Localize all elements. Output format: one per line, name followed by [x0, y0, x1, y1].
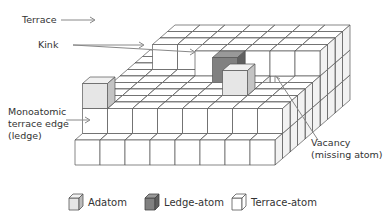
terrace-cube-front — [200, 140, 225, 165]
terrace-cube-front — [225, 140, 250, 165]
terrace-cube-front — [233, 109, 258, 134]
terrace-cube-front — [108, 109, 133, 134]
legend-terrace-atom: Terrace-atom — [231, 193, 317, 211]
terrace-cube-front — [125, 140, 150, 165]
terrace-cube-front — [175, 140, 200, 165]
terrace-cube-front — [183, 109, 208, 134]
adatom-cube-front — [223, 71, 248, 96]
cube-lattice — [75, 25, 350, 165]
ledge-atom-cube-icon — [144, 193, 160, 211]
terrace-cube-front — [83, 109, 108, 134]
vacancy-label: Vacancy (missing atom) — [311, 137, 383, 161]
terrace-cube-front — [153, 45, 178, 70]
legend-ledge-atom-label: Ledge-atom — [164, 197, 224, 208]
terrace-cube-front — [270, 51, 295, 76]
terrace-cube-front — [158, 109, 183, 134]
ledge-label-line2: terrace edge — [8, 118, 69, 130]
adatom-cube-icon — [68, 193, 84, 211]
adatom-cube-front — [83, 84, 108, 109]
legend-adatom: Adatom — [68, 193, 127, 211]
ledge-label-line3: (ledge) — [8, 130, 69, 142]
terrace-cube-front — [295, 51, 320, 76]
legend-ledge-atom: Ledge-atom — [144, 193, 224, 211]
terrace-cube-front — [133, 109, 158, 134]
ledge-label-line1: Monoatomic — [8, 106, 69, 118]
vacancy-label-line2: (missing atom) — [311, 149, 383, 161]
vacancy-label-line1: Vacancy — [311, 137, 383, 149]
terrace-cube-front — [150, 140, 175, 165]
legend-terrace-atom-label: Terrace-atom — [251, 197, 317, 208]
terrace-atom-cube-icon — [231, 193, 247, 211]
ledge-label: Monoatomic terrace edge (ledge) — [8, 106, 69, 142]
terrace-cube-front — [250, 140, 275, 165]
terrace-cube-front — [100, 140, 125, 165]
terrace-cube-front — [258, 109, 283, 134]
legend-adatom-label: Adatom — [88, 197, 127, 208]
kink-label: Kink — [38, 39, 58, 51]
terrace-cube-front — [208, 109, 233, 134]
terrace-cube-front — [75, 140, 100, 165]
terrace-label: Terrace — [22, 14, 57, 26]
